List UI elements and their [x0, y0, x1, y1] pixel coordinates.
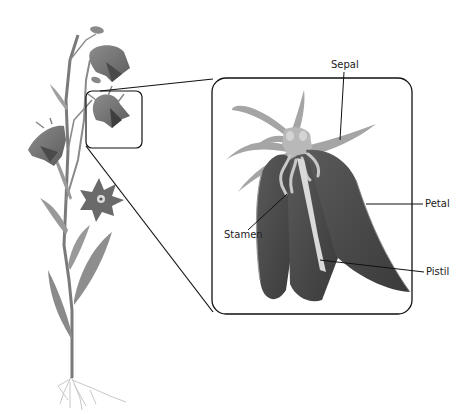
connector-line-top [100, 79, 213, 91]
label-stamen: Stamen [224, 229, 263, 241]
connector-line-bottom [86, 146, 213, 312]
open-flower [80, 178, 124, 222]
label-pistil: Pistil [426, 266, 449, 278]
flower-diagram [0, 0, 470, 414]
label-petal: Petal [425, 198, 450, 210]
plant-illustration [28, 25, 142, 410]
highlighted-flower [88, 86, 130, 128]
label-sepal: Sepal [331, 59, 359, 71]
roots [58, 375, 126, 410]
